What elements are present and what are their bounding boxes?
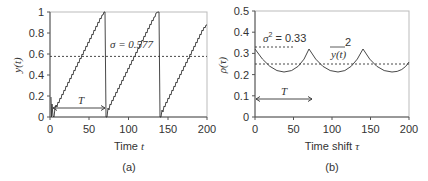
sigma-annotation: σ = 0.577 (110, 38, 154, 50)
svg-text:y(t): y(t) (330, 48, 347, 61)
ytick-label: 0.8 (29, 27, 44, 39)
xtick-label: 100 (119, 123, 137, 135)
y-axis-label-b: ρ(τ) (216, 56, 229, 74)
xtick-label: 150 (361, 123, 379, 135)
ytick-label: 0.6 (29, 48, 44, 60)
plot-area-a (50, 12, 207, 117)
ytick-label: 1 (38, 6, 44, 18)
x-ticks-b: 0 50 100 150 200 (252, 117, 418, 135)
ytick-label: 0.3 (234, 47, 249, 59)
ytick-label: 0.2 (234, 69, 249, 81)
xtick-label: 200 (198, 123, 216, 135)
mean-squared-annotation: y(t) 2 (330, 36, 351, 61)
x-ticks-a: 0 50 100 150 200 (47, 117, 216, 135)
figure: 0 0.2 0.4 0.6 0.8 1 0 50 100 150 200 y(t… (0, 0, 428, 181)
x-axis-label-a: Time t (114, 140, 145, 152)
y-ticks-a: 0 0.2 0.4 0.6 0.8 1 (29, 6, 50, 123)
xtick-label: 0 (47, 123, 53, 135)
sigma-squared-annotation: σ2 = 0.33 (263, 31, 306, 44)
xtick-label: 0 (252, 123, 258, 135)
xtick-label: 50 (83, 123, 95, 135)
xtick-label: 150 (159, 123, 177, 135)
svg-text:2: 2 (345, 36, 351, 48)
panel-a: 0 0.2 0.4 0.6 0.8 1 0 50 100 150 200 y(t… (11, 6, 216, 173)
period-arrow-a: T (53, 94, 105, 111)
ytick-label: 0.4 (234, 26, 249, 38)
x-axis-label-b: Time shift τ (305, 140, 360, 152)
sawtooth-curve (51, 12, 207, 117)
ytick-label: 0.1 (234, 90, 249, 102)
ytick-label: 0.5 (234, 5, 249, 17)
period-label-b: T (281, 85, 288, 97)
period-label-a: T (78, 94, 85, 106)
panel-b: 0 0.1 0.2 0.3 0.4 0.5 0 50 100 150 200 ρ… (216, 5, 418, 173)
caption-b: (b) (325, 161, 338, 173)
xtick-label: 100 (323, 123, 341, 135)
caption-a: (a) (122, 161, 135, 173)
ytick-label: 0.2 (29, 90, 44, 102)
ytick-label: 0 (243, 111, 249, 123)
xtick-label: 50 (287, 123, 299, 135)
period-arrow-b: T (256, 85, 312, 102)
ytick-label: 0 (38, 111, 44, 123)
xtick-label: 200 (400, 123, 418, 135)
y-axis-label-a: y(t) (11, 57, 24, 74)
y-ticks-b: 0 0.1 0.2 0.3 0.4 0.5 (234, 5, 255, 123)
ytick-label: 0.4 (29, 69, 44, 81)
